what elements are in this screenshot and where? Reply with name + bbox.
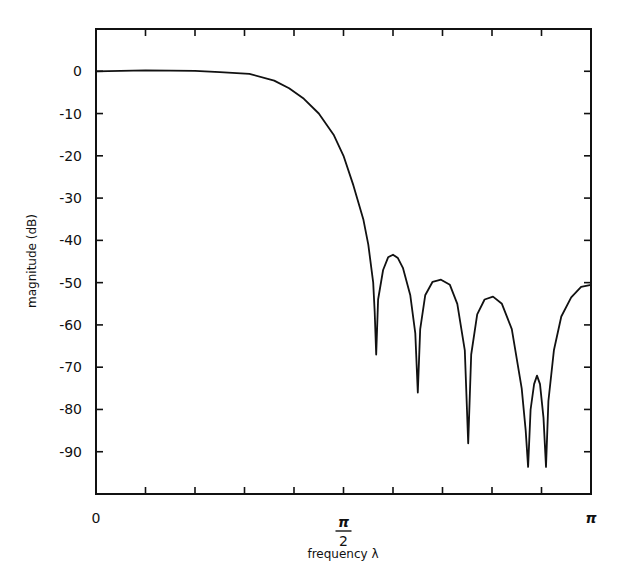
x-tick-label-numerator: π <box>338 514 350 530</box>
y-tick-label: -60 <box>59 317 82 333</box>
x-axis-title: frequency λ <box>307 547 378 561</box>
x-tick-label: π <box>585 510 597 526</box>
y-axis-title: magnitude (dB) <box>25 214 39 308</box>
y-tick-label: -50 <box>59 275 82 291</box>
y-tick-label: -20 <box>59 148 82 164</box>
y-tick-label: -30 <box>59 190 82 206</box>
magnitude-curve <box>96 70 591 467</box>
magnitude-response-chart: 0-10-20-30-40-50-60-70-80-90 0π2π magnit… <box>0 0 619 584</box>
y-tick-label: -10 <box>59 106 82 122</box>
plot-frame <box>96 29 591 494</box>
axis-ticks <box>96 29 591 494</box>
plot-border <box>96 29 591 494</box>
y-tick-label: -90 <box>59 444 82 460</box>
y-tick-label: -80 <box>59 401 82 417</box>
y-tick-labels: 0-10-20-30-40-50-60-70-80-90 <box>59 63 82 459</box>
x-tick-labels: 0π2π <box>92 510 598 549</box>
x-tick-label: 0 <box>92 510 101 526</box>
y-tick-label: 0 <box>73 63 82 79</box>
y-tick-label: -70 <box>59 359 82 375</box>
y-tick-label: -40 <box>59 232 82 248</box>
